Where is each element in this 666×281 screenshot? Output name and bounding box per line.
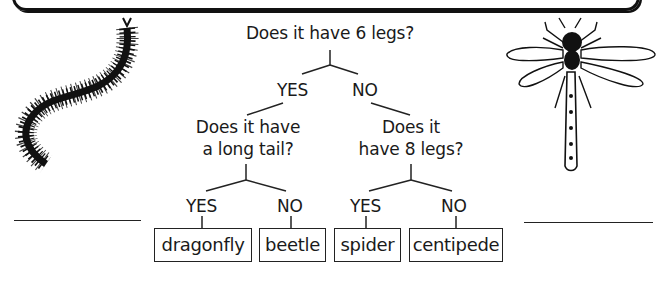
question-root: Does it have 6 legs? (230, 22, 430, 44)
result-box-spider: spider (334, 228, 401, 262)
answer-no-6-legs: NO (352, 80, 378, 100)
result-box-centipede: centipede (409, 228, 503, 262)
centipede-illustration (10, 14, 140, 174)
answer-blank-left[interactable] (14, 220, 141, 221)
question-8-legs-line2: have 8 legs? (346, 138, 476, 160)
question-long-tail-line1: Does it have (180, 116, 316, 138)
dragonfly-illustration (503, 16, 663, 176)
answer-yes-8-legs: YES (350, 196, 381, 216)
result-box-dragonfly: dragonfly (154, 228, 252, 262)
answer-no-long-tail: NO (277, 196, 303, 216)
question-long-tail-line2: a long tail? (180, 138, 316, 160)
question-8-legs-line1: Does it (346, 116, 476, 138)
question-long-tail: Does it have a long tail? (180, 116, 316, 160)
result-box-beetle: beetle (259, 228, 326, 262)
question-8-legs: Does it have 8 legs? (346, 116, 476, 160)
answer-yes-long-tail: YES (186, 196, 217, 216)
answer-yes-6-legs: YES (277, 80, 308, 100)
answer-no-8-legs: NO (441, 196, 467, 216)
answer-blank-right[interactable] (524, 222, 653, 223)
